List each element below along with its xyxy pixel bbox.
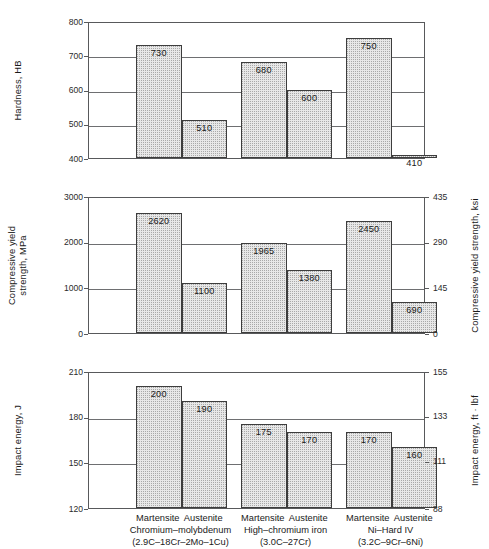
bar-austenite-1: 1100: [182, 283, 228, 333]
tickmark-left-210: [84, 372, 88, 373]
axis-title-right: Impact energy, ft · lbf: [469, 372, 480, 509]
category-axis-labels: MartensiteAusteniteMartensiteAusteniteMa…: [88, 511, 425, 540]
bar-austenite-5: 160: [392, 447, 438, 508]
bar-value-label: 1965: [242, 246, 286, 256]
bar-austenite-5: 410: [392, 155, 438, 158]
tickmark-right-145: [425, 288, 429, 289]
ytick-left-500: 500: [43, 119, 83, 129]
ytick-left-700: 700: [43, 51, 83, 61]
group-label-name-2: Ni–Hard IV: [321, 525, 461, 537]
tickmark-left-600: [84, 91, 88, 92]
bar-value-label: 680: [242, 65, 286, 75]
bar-value-label: 690: [393, 305, 437, 315]
bar-value-label: 510: [183, 123, 227, 133]
axis-title-left-line1: Compressive yield: [6, 197, 17, 334]
axis-title-right: Compressive yield strength, ksi: [469, 197, 480, 334]
plot-area-1: 26201100196513802450690: [88, 197, 425, 334]
bar-value-label: 1100: [183, 286, 227, 296]
ytick-right-155: 155: [433, 367, 463, 377]
chart-panel-compressive-yield-strength: 2620110019651380245069001000200030000145…: [0, 175, 489, 350]
bar-value-label: 175: [242, 427, 286, 437]
ytick-left-400: 400: [43, 154, 83, 164]
bar-austenite-1: 190: [182, 401, 228, 508]
ytick-right-111: 111: [433, 456, 463, 466]
tickmark-left-150: [84, 463, 88, 464]
tickmark-left-180: [84, 418, 88, 419]
axis-title-left: Hardness, HB: [12, 22, 23, 159]
bar-value-label: 170: [288, 435, 332, 445]
tickmark-right-290: [425, 243, 429, 244]
ytick-left-180: 180: [43, 412, 83, 422]
ytick-left-800: 800: [43, 17, 83, 27]
ytick-left-600: 600: [43, 85, 83, 95]
bar-austenite-3: 170: [287, 432, 333, 508]
ytick-left-3000: 3000: [43, 192, 83, 202]
tickmark-left-1000: [84, 288, 88, 289]
ytick-left-120: 120: [43, 504, 83, 514]
bar-series: 200190175170170160: [89, 373, 424, 508]
tickmark-left-500: [84, 125, 88, 126]
bar-value-label: 190: [183, 404, 227, 414]
plot-area-0: 730510680600750410: [88, 22, 425, 159]
ytick-left-2000: 2000: [43, 237, 83, 247]
bar-martensite-2: 680: [241, 62, 287, 158]
bar-value-label: 1380: [288, 273, 332, 283]
tickmark-left-120: [84, 509, 88, 510]
bar-austenite-3: 1380: [287, 270, 333, 333]
bar-value-label: 2620: [137, 216, 181, 226]
bar-value-label: 410: [393, 158, 437, 168]
axis-title-left-line2: strength, MPa: [17, 197, 28, 334]
ytick-right-145: 145: [433, 283, 463, 293]
category-label-5: Austenite: [373, 513, 453, 525]
plot-area-2: 200190175170170160: [88, 372, 425, 509]
tickmark-left-2000: [84, 243, 88, 244]
ytick-left-0: 0: [43, 329, 83, 339]
tickmark-left-400: [84, 159, 88, 160]
bar-martensite-0: 2620: [136, 213, 182, 333]
axis-title-left: Compressive yieldstrength, MPa: [6, 197, 28, 334]
bar-martensite-0: 730: [136, 45, 182, 158]
ytick-left-150: 150: [43, 458, 83, 468]
tickmark-right-111: [425, 462, 429, 463]
bar-austenite-5: 690: [392, 302, 438, 334]
bar-martensite-0: 200: [136, 386, 182, 508]
bar-series: 730510680600750410: [89, 23, 424, 158]
tickmark-right-88: [425, 509, 429, 510]
bar-martensite-4: 750: [346, 38, 392, 158]
ytick-left-210: 210: [43, 367, 83, 377]
bar-value-label: 170: [347, 435, 391, 445]
bar-martensite-4: 2450: [346, 221, 392, 333]
bar-value-label: 200: [137, 389, 181, 399]
bar-martensite-2: 175: [241, 424, 287, 508]
chart-panel-impact-energy: 2001901751701701601201501802108811113315…: [0, 350, 489, 540]
ytick-right-88: 88: [433, 504, 463, 514]
tickmark-right-155: [425, 372, 429, 373]
bar-value-label: 600: [288, 93, 332, 103]
bar-austenite-3: 600: [287, 90, 333, 159]
bar-value-label: 750: [347, 41, 391, 51]
tickmark-left-700: [84, 56, 88, 57]
tickmark-right-133: [425, 417, 429, 418]
tickmark-left-0: [84, 334, 88, 335]
ytick-left-1000: 1000: [43, 283, 83, 293]
group-label-composition-2: (3.2C–9Cr–6Ni): [321, 537, 461, 549]
tickmark-left-800: [84, 22, 88, 23]
tickmark-right-0: [425, 334, 429, 335]
ytick-right-435: 435: [433, 192, 463, 202]
bar-martensite-2: 1965: [241, 243, 287, 333]
ytick-right-290: 290: [433, 237, 463, 247]
bar-austenite-1: 510: [182, 120, 228, 158]
bar-series: 26201100196513802450690: [89, 198, 424, 333]
tickmark-right-435: [425, 197, 429, 198]
ytick-right-133: 133: [433, 411, 463, 421]
bar-value-label: 730: [137, 48, 181, 58]
tickmark-left-3000: [84, 197, 88, 198]
chart-panel-hardness: 730510680600750410400500600700800Hardnes…: [0, 0, 489, 175]
bar-value-label: 160: [393, 450, 437, 460]
ytick-right-0: 0: [433, 329, 463, 339]
bar-martensite-4: 170: [346, 432, 392, 508]
bar-value-label: 2450: [347, 224, 391, 234]
axis-title-left: Impact energy, J: [12, 372, 23, 509]
